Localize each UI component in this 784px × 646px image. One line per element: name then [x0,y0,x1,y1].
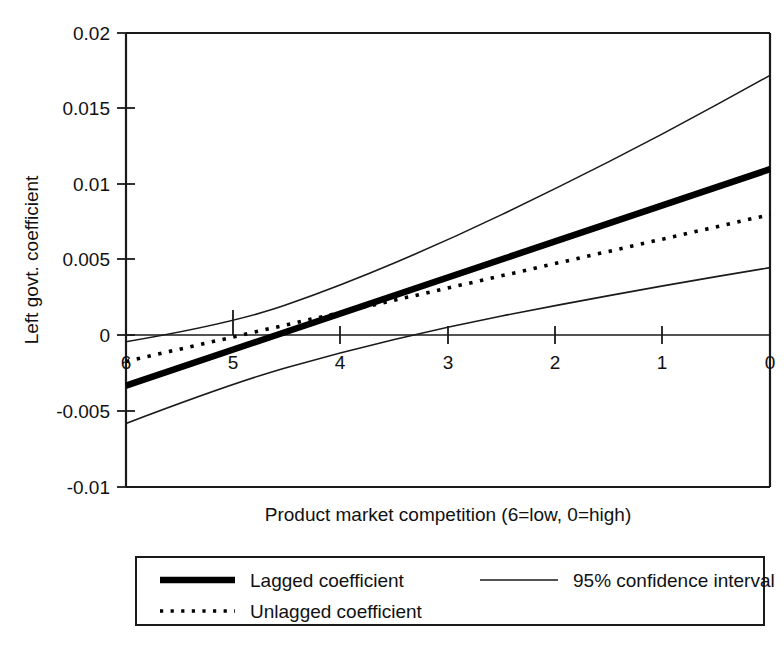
y-axis-tick-labels: 0.02 0.015 0.01 0.005 0 -0.005 -0.01 [56,23,110,498]
x-tick-label-2: 2 [550,352,561,373]
chart-figure: 0.02 0.015 0.01 0.005 0 -0.005 -0.01 6 5… [0,0,784,646]
x-tick-label-4: 4 [335,352,346,373]
plot-frame [126,33,770,487]
y-tick-label-4: 0 [99,325,110,346]
y-tick-label-6: -0.01 [67,477,110,498]
x-tick-label-3: 3 [443,352,454,373]
y-tick-label-1: 0.015 [62,98,110,119]
x-tick-label-1: 1 [657,352,668,373]
series-confidence-interval-lower [126,268,770,424]
y-tick-label-5: -0.005 [56,401,110,422]
legend-label-unlagged-coefficient: Unlagged coefficient [250,601,423,622]
x-tick-label-0: 0 [765,352,776,373]
x-tick-label-5: 5 [228,352,239,373]
y-tick-label-3: 0.005 [62,249,110,270]
x-axis-title: Product market competition (6=low, 0=hig… [265,504,631,525]
y-tick-label-0: 0.02 [73,23,110,44]
series-confidence-interval-upper [126,75,770,341]
chart-canvas: 0.02 0.015 0.01 0.005 0 -0.005 -0.01 6 5… [0,0,784,646]
chart-legend: Lagged coefficient 95% confidence interv… [136,557,775,625]
legend-label-lagged-coefficient: Lagged coefficient [250,570,405,591]
y-tick-label-2: 0.01 [73,174,110,195]
legend-border [136,557,764,625]
x-tick-label-6: 6 [121,352,132,373]
legend-label-confidence-interval: 95% confidence interval [573,570,775,591]
y-axis-title: Left govt. coefficient [21,175,42,344]
